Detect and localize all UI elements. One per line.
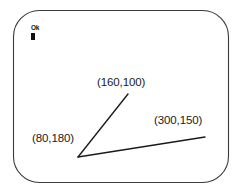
coordinate-label-vertex: (80,180) <box>32 133 74 145</box>
command-prompt-marker: Ok <box>31 25 39 40</box>
block-cursor-icon <box>31 33 35 40</box>
coordinate-label-upper-endpoint: (160,100) <box>97 77 145 89</box>
coordinate-label-right-endpoint: (300,150) <box>154 115 202 127</box>
crt-screen-figure: Ok (160,100) (300,150) (80,180) <box>0 0 242 193</box>
crt-screen-outline <box>14 11 229 183</box>
prompt-label: Ok <box>31 25 39 32</box>
